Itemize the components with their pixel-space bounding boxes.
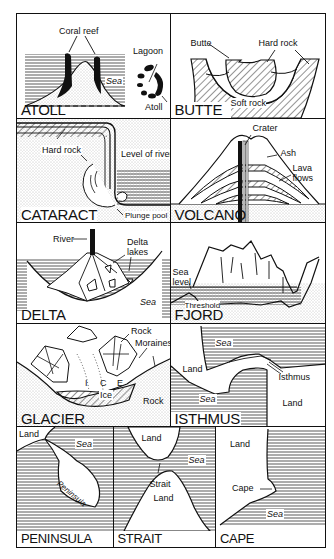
label-hard-rock: Hard rock [259, 38, 298, 48]
panel-isthmus: Sea Land Isthmus Sea Land ISTHMUS [170, 323, 326, 428]
label-ice-letter-c: C [100, 378, 107, 388]
label-land: Land [19, 429, 39, 439]
panel-title-glacier: GLACIER [21, 411, 85, 426]
label-atoll: Atoll [145, 102, 163, 112]
label-ice: Ice [99, 390, 113, 400]
panel-atoll: Coral reef Sea Lagoon Atoll ATOLL [16, 13, 171, 119]
label-coral-reef: Coral reef [59, 26, 99, 36]
label-ash: Ash [281, 148, 297, 158]
label-land-right: Land [283, 398, 303, 408]
label-butte: Butte [191, 38, 212, 48]
panel-volcano: Crater Ash Lava flows VOLCANO [170, 118, 326, 224]
panel-fjord: Sea level Threshold FJORD [170, 222, 326, 324]
label-cape: Cape [232, 483, 254, 493]
label-sea-top: Sea [215, 338, 233, 348]
panel-title-delta: DELTA [21, 307, 66, 322]
label-lagoon: Lagoon [133, 46, 163, 56]
label-delta: Delta [127, 237, 148, 247]
label-plunge-pool: Plunge pool [125, 211, 167, 221]
panel-title-cape: CAPE [220, 531, 254, 546]
landforms-diagram-sheet: Coral reef Sea Lagoon Atoll ATOLL Butte … [0, 0, 334, 559]
label-ice-letter-e: E [117, 378, 123, 388]
panel-peninsula: Land Sea Peninsula PENINSULA [16, 426, 114, 548]
label-land-bottom: Land [154, 493, 174, 503]
label-sea: Sea [188, 455, 206, 465]
label-land-left: Land [183, 364, 203, 374]
label-flows: flows [293, 173, 314, 183]
panel-butte: Butte Hard rock Soft rock BUTTE [170, 13, 326, 119]
panel-cataract: Hard rock Level of river Plunge pool CAT… [16, 118, 171, 224]
panel-title-butte: BUTTE [175, 102, 223, 117]
panel-cape: Land Cape Sea CAPE [215, 426, 326, 548]
label-river: River [53, 234, 74, 244]
label-level-of-river: Level of river [120, 149, 171, 159]
label-land-top: Land [142, 433, 162, 443]
label-sea: Sea [75, 439, 93, 449]
panel-delta: River Delta lakes Sea DELTA [16, 222, 171, 324]
panel-title-fjord: FJORD [175, 307, 224, 322]
label-sea: Sea [105, 76, 123, 86]
panel-title-volcano: VOLCANO [175, 207, 246, 222]
panel-title-isthmus: ISTHMUS [175, 411, 240, 426]
panel-title-atoll: ATOLL [21, 102, 66, 117]
label-level: level [173, 277, 192, 287]
label-hard-rock: Hard rock [41, 145, 82, 155]
label-soft-rock: Soft rock [231, 98, 267, 108]
label-sea: Sea [173, 267, 189, 277]
label-rock-bottom: Rock [143, 396, 164, 406]
label-lava: Lava [293, 163, 313, 173]
label-rock-top: Rock [131, 326, 152, 336]
label-sea-bottom: Sea [199, 394, 217, 404]
panel-strait: Land Sea Strait Land STRAIT [113, 426, 217, 548]
label-lakes: lakes [127, 247, 148, 257]
label-sea: Sea [266, 509, 284, 519]
panel-title-peninsula: PENINSULA [21, 531, 92, 546]
label-sea: Sea [139, 297, 157, 307]
label-ice-letter-i: I [85, 378, 88, 388]
label-crater: Crater [253, 123, 278, 133]
label-strait: Strait [150, 479, 171, 489]
panel-title-cataract: CATARACT [21, 207, 97, 222]
label-land: Land [230, 439, 250, 449]
panel-glacier: Rock Moraines I C E Ice Rock GLACIER [16, 323, 171, 428]
panel-title-strait: STRAIT [118, 531, 162, 546]
label-isthmus: Isthmus [279, 372, 311, 382]
label-moraines: Moraines [135, 338, 171, 348]
